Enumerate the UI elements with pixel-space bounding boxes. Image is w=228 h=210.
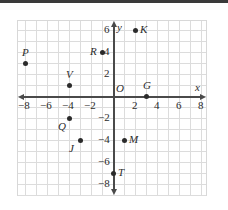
y-tick-label: −2 — [98, 112, 110, 123]
x-tick-label: 4 — [154, 100, 160, 111]
x-tick-label: 8 — [198, 100, 204, 111]
grid-line-horizontal — [18, 74, 206, 75]
top-border-strip — [0, 0, 228, 3]
grid-line-vertical — [80, 21, 81, 195]
x-tick-label: −2 — [84, 100, 96, 111]
plotted-point-m — [122, 138, 127, 143]
plotted-point-j — [78, 138, 83, 143]
x-axis-line — [21, 96, 201, 98]
grid-line-horizontal — [18, 63, 206, 64]
y-tick-label: 4 — [104, 46, 110, 57]
grid-line-horizontal — [18, 195, 206, 196]
grid-line-horizontal — [18, 162, 206, 163]
x-axis-label: x — [195, 82, 200, 93]
grid-line-vertical — [102, 21, 103, 195]
grid-line-horizontal — [18, 151, 206, 152]
grid-line-vertical — [124, 21, 125, 195]
x-tick-label: 2 — [132, 100, 138, 111]
coordinate-plane-plot: −8−6−4−22468642−2−4−6−8 O x y KPRVGQJMT — [17, 20, 207, 196]
grid-line-vertical — [58, 21, 59, 195]
grid-line-horizontal — [18, 41, 206, 42]
point-label-q: Q — [58, 121, 66, 132]
plotted-point-k — [133, 28, 138, 33]
grid-line-vertical — [168, 21, 169, 195]
x-tick-label: −6 — [40, 100, 52, 111]
y-tick-label: 6 — [104, 24, 110, 35]
y-axis-label: y — [117, 22, 122, 33]
coordinate-plane-screenshot: −8−6−4−22468642−2−4−6−8 O x y KPRVGQJMT — [0, 0, 228, 210]
grid-line-horizontal — [18, 85, 206, 86]
point-label-t: T — [118, 167, 124, 178]
plotted-point-t — [111, 171, 116, 176]
y-tick-label: −4 — [98, 134, 110, 145]
x-tick-label: −8 — [18, 100, 30, 111]
point-label-k: K — [140, 24, 147, 35]
point-label-m: M — [129, 134, 138, 145]
plotted-point-p — [23, 61, 28, 66]
grid-line-vertical — [146, 21, 147, 195]
x-tick-label: 6 — [176, 100, 182, 111]
point-label-p: P — [22, 47, 29, 58]
plotted-point-q — [67, 116, 72, 121]
y-tick-label: 2 — [104, 68, 110, 79]
point-label-g: G — [143, 80, 151, 91]
grid-line-horizontal — [18, 140, 206, 141]
grid-line-horizontal — [18, 184, 206, 185]
grid-line-horizontal — [18, 129, 206, 130]
grid-line-horizontal — [18, 30, 206, 31]
origin-label: O — [116, 83, 124, 94]
grid-line-vertical — [190, 21, 191, 195]
x-tick-label: −4 — [62, 100, 74, 111]
y-axis-arrow-down-icon — [111, 189, 117, 195]
y-axis-arrow-up-icon — [111, 21, 117, 27]
plotted-point-v — [67, 83, 72, 88]
plotted-point-r — [100, 50, 105, 55]
grid-line-horizontal — [18, 118, 206, 119]
y-tick-label: −6 — [98, 156, 110, 167]
grid-line-vertical — [36, 21, 37, 195]
grid-line-horizontal — [18, 52, 206, 53]
point-label-j: J — [69, 143, 74, 154]
plotted-point-g — [144, 94, 149, 99]
point-label-r: R — [90, 46, 97, 57]
y-axis-line — [113, 24, 115, 192]
y-tick-label: −8 — [98, 178, 110, 189]
point-label-v: V — [66, 69, 73, 80]
